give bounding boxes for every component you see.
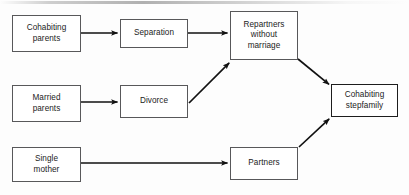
edge-divorce-to-repartners bbox=[189, 63, 229, 103]
node-separation[interactable]: Separation bbox=[120, 19, 188, 48]
node-cohabiting-parents-label: Cohabiting parents bbox=[27, 23, 67, 44]
node-repartners-without-marriage-label: Repartners without marriage bbox=[243, 20, 284, 52]
node-single-mother[interactable]: Single mother bbox=[12, 147, 81, 182]
node-partners[interactable]: Partners bbox=[230, 147, 298, 180]
node-single-mother-label: Single mother bbox=[34, 154, 60, 175]
node-cohabiting-stepfamily[interactable]: Cohabiting stepfamily bbox=[331, 84, 398, 117]
node-repartners-without-marriage[interactable]: Repartners without marriage bbox=[230, 11, 298, 60]
node-cohabiting-parents[interactable]: Cohabiting parents bbox=[12, 15, 81, 52]
edge-partners-to-cohabiting-stepfamily bbox=[299, 119, 329, 147]
node-divorce[interactable]: Divorce bbox=[120, 85, 188, 118]
node-cohabiting-stepfamily-label: Cohabiting stepfamily bbox=[345, 90, 385, 111]
edge-repartners-to-cohabiting-stepfamily bbox=[298, 59, 329, 84]
flowchart-diagram: Cohabiting parents Separation Repartners… bbox=[0, 0, 409, 195]
node-married-parents-label: Married parents bbox=[32, 93, 60, 114]
node-divorce-label: Divorce bbox=[140, 96, 168, 107]
node-married-parents[interactable]: Married parents bbox=[12, 85, 81, 122]
node-partners-label: Partners bbox=[248, 158, 279, 169]
node-separation-label: Separation bbox=[134, 28, 174, 39]
